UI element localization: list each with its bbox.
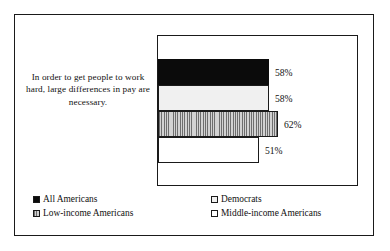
legend-row: Low-income Americans Middle-income Ameri…	[33, 207, 363, 221]
plot-area: 58% 58% 62% 51%	[157, 35, 358, 186]
legend-item-middle-income-americans[interactable]: Middle-income Americans	[211, 207, 321, 221]
legend-item-all-americans[interactable]: All Americans	[33, 193, 97, 207]
bar-low-income-americans[interactable]	[158, 111, 278, 137]
legend-swatch-democrats-icon	[211, 196, 218, 203]
legend-item-low-income-americans[interactable]: Low-income Americans	[33, 207, 133, 221]
legend-item-democrats[interactable]: Democrats	[211, 193, 262, 207]
legend-label-low-income-americans: Low-income Americans	[43, 207, 133, 221]
chart-figure: In order to get people to work hard, lar…	[14, 14, 374, 236]
bar-label-middle-income: 51%	[265, 145, 283, 156]
bar-democrats[interactable]	[158, 85, 269, 111]
bar-label-all-americans: 58%	[275, 67, 293, 78]
bar-row-democrats: 58%	[158, 85, 357, 111]
chart-legend: All Americans Democrats Low-income Ameri…	[33, 193, 363, 220]
legend-row: All Americans Democrats	[33, 193, 363, 207]
legend-swatch-middle-income-icon	[211, 210, 218, 217]
legend-label-democrats: Democrats	[221, 193, 262, 207]
bar-row-all-americans: 58%	[158, 59, 357, 85]
bar-row-middle-income: 51%	[158, 137, 357, 163]
legend-label-middle-income-americans: Middle-income Americans	[221, 207, 321, 221]
bar-middle-income-americans[interactable]	[158, 137, 259, 163]
bar-label-democrats: 58%	[275, 93, 293, 104]
bar-row-low-income: 62%	[158, 111, 357, 137]
legend-swatch-low-income-icon	[33, 210, 40, 217]
legend-swatch-all-americans-icon	[33, 196, 40, 203]
bar-all-americans[interactable]	[158, 59, 269, 85]
legend-label-all-americans: All Americans	[43, 193, 97, 207]
bar-label-low-income: 62%	[284, 119, 302, 130]
chart-caption: In order to get people to work hard, lar…	[21, 71, 155, 108]
